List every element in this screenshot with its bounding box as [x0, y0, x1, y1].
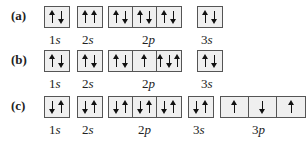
spin-up-arrow-icon	[170, 100, 177, 114]
orbital-box	[133, 7, 157, 27]
spin-up-arrow-icon	[161, 10, 168, 24]
row-label: (a)	[11, 8, 26, 24]
orbital-2s	[77, 50, 103, 72]
subshell-label-2p: 2p	[142, 76, 155, 92]
orbital-box	[45, 51, 69, 71]
spin-down-arrow-icon	[58, 54, 65, 68]
spin-up-arrow-icon	[202, 10, 209, 24]
subshell-label-2s: 2s	[82, 122, 94, 138]
orbital-box	[198, 7, 222, 27]
subshell-label-2s: 2s	[82, 76, 94, 92]
spin-up-arrow-icon	[137, 10, 144, 24]
spin-up-arrow-icon	[113, 54, 120, 68]
subshell-label-1s: 1s	[49, 76, 61, 92]
orbital-2s	[77, 96, 103, 118]
spin-up-arrow-icon	[174, 54, 181, 68]
spin-down-arrow-icon	[122, 10, 129, 24]
spin-down-arrow-icon	[161, 100, 168, 114]
orbital-2p	[108, 6, 182, 28]
spin-up-arrow-icon	[141, 54, 148, 68]
orbital-2p	[108, 96, 182, 118]
spin-down-arrow-icon	[122, 54, 129, 68]
row-label: (c)	[11, 98, 25, 114]
spin-down-arrow-icon	[193, 100, 200, 114]
orbital-3s	[197, 50, 223, 72]
orbital-box	[157, 7, 181, 27]
orbital-box	[45, 7, 69, 27]
spin-down-arrow-icon	[146, 10, 153, 24]
orbital-box	[109, 51, 133, 71]
orbital-1s	[44, 6, 70, 28]
subshell-label-2p: 2p	[138, 122, 151, 138]
spin-up-arrow-icon	[288, 100, 295, 114]
spin-up-arrow-icon	[157, 54, 164, 68]
subshell-label-1s: 1s	[49, 122, 61, 138]
orbital-box	[45, 97, 69, 117]
row-label: (b)	[11, 52, 27, 68]
spin-up-arrow-icon	[113, 10, 120, 24]
spin-down-arrow-icon	[91, 54, 98, 68]
spin-up-arrow-icon	[202, 100, 209, 114]
row-b: (b) 1s 2s 2p 3s	[0, 46, 308, 90]
spin-up-arrow-icon	[91, 100, 98, 114]
orbital-box	[133, 51, 157, 71]
orbital-1s	[44, 96, 70, 118]
orbital-box	[109, 97, 133, 117]
spin-down-arrow-icon	[170, 10, 177, 24]
orbital-3s	[197, 6, 223, 28]
spin-up-arrow-icon	[82, 54, 89, 68]
spin-down-arrow-icon	[211, 54, 218, 68]
spin-down-arrow-icon	[137, 100, 144, 114]
orbital-box	[133, 97, 157, 117]
spin-up-arrow-icon	[202, 54, 209, 68]
orbital-box	[78, 7, 102, 27]
orbital-box	[109, 7, 133, 27]
subshell-label-3s: 3s	[201, 76, 213, 92]
spin-down-arrow-icon	[82, 100, 89, 114]
orbital-2p	[108, 50, 182, 72]
subshell-label-3p: 3p	[252, 122, 265, 138]
spin-down-arrow-icon	[166, 54, 173, 68]
orbital-box	[157, 51, 181, 71]
spin-up-arrow-icon	[49, 10, 56, 24]
orbital-2s	[77, 6, 103, 28]
subshell-label-3s: 3s	[193, 122, 205, 138]
orbital-3p	[220, 96, 306, 118]
orbital-3s	[188, 96, 214, 118]
spin-up-arrow-icon	[91, 10, 98, 24]
row-c: (c) 1s 2s 2p 3s 3p	[0, 92, 308, 136]
orbital-box	[157, 97, 181, 117]
spin-down-arrow-icon	[113, 100, 120, 114]
spin-down-arrow-icon	[211, 10, 218, 24]
spin-up-arrow-icon	[58, 100, 65, 114]
orbital-box	[249, 97, 277, 117]
orbital-box	[221, 97, 249, 117]
spin-down-arrow-icon	[259, 100, 266, 114]
row-a: (a) 1s 2s 2p 3s	[0, 2, 308, 46]
orbital-box	[78, 97, 102, 117]
spin-down-arrow-icon	[58, 10, 65, 24]
orbital-box	[198, 51, 222, 71]
spin-up-arrow-icon	[49, 54, 56, 68]
spin-up-arrow-icon	[231, 100, 238, 114]
spin-up-arrow-icon	[122, 100, 129, 114]
orbital-box	[277, 97, 305, 117]
orbital-1s	[44, 50, 70, 72]
spin-up-arrow-icon	[82, 10, 89, 24]
orbital-box	[78, 51, 102, 71]
orbital-box	[189, 97, 213, 117]
spin-down-arrow-icon	[49, 100, 56, 114]
spin-up-arrow-icon	[146, 100, 153, 114]
